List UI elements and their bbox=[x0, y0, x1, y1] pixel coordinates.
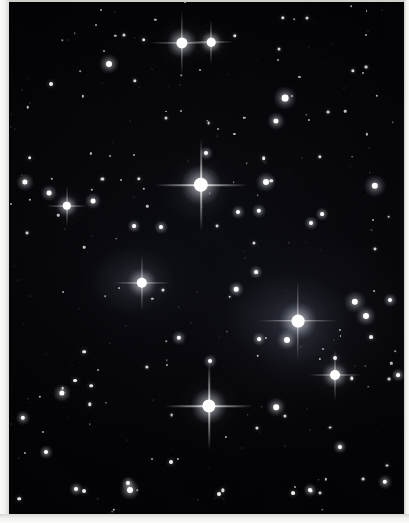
star-m23 bbox=[308, 488, 312, 492]
star-m02 bbox=[282, 95, 289, 102]
faint-star bbox=[18, 457, 19, 458]
faint-star bbox=[367, 31, 368, 32]
star-m33 bbox=[338, 445, 342, 449]
faint-star bbox=[300, 346, 301, 347]
faint-star bbox=[136, 489, 138, 491]
star-m11 bbox=[159, 225, 163, 229]
faint-star bbox=[10, 113, 11, 114]
star-m18 bbox=[59, 390, 64, 395]
star-m21 bbox=[127, 487, 133, 493]
bright-star-left-nebulous-glow bbox=[128, 269, 156, 297]
faint-glow-center bbox=[163, 167, 231, 223]
faint-star bbox=[262, 156, 266, 160]
faint-star bbox=[382, 9, 383, 10]
faint-star bbox=[66, 416, 67, 417]
faint-glow-lower-right bbox=[252, 314, 348, 386]
star-m17 bbox=[273, 404, 279, 410]
faint-star bbox=[79, 70, 81, 72]
faint-star bbox=[29, 199, 31, 201]
star-m13 bbox=[254, 270, 258, 274]
faint-star bbox=[319, 155, 322, 158]
faint-star bbox=[82, 489, 86, 493]
faint-star bbox=[91, 189, 93, 191]
star-m22-glow bbox=[69, 482, 83, 496]
faint-star bbox=[173, 448, 174, 449]
faint-star bbox=[233, 34, 236, 37]
brightest-star-center-spike-vertical bbox=[200, 139, 202, 231]
faint-star bbox=[344, 110, 347, 113]
faint-star bbox=[277, 47, 280, 50]
faint-star bbox=[166, 360, 168, 362]
faint-star bbox=[165, 340, 167, 342]
faint-star bbox=[101, 83, 102, 84]
faint-star bbox=[18, 497, 22, 501]
faint-star bbox=[247, 414, 248, 415]
faint-star bbox=[365, 34, 367, 36]
star-m05-glow bbox=[41, 185, 57, 201]
star-m26-glow bbox=[316, 208, 329, 221]
faint-star bbox=[17, 279, 18, 280]
faint-star bbox=[67, 40, 68, 41]
star-m27 bbox=[388, 298, 392, 302]
star-m05 bbox=[47, 191, 52, 196]
star-m04-glow bbox=[16, 173, 34, 191]
faint-star bbox=[394, 350, 396, 352]
faint-star bbox=[339, 445, 342, 448]
faint-star bbox=[373, 290, 375, 292]
faint-star bbox=[22, 324, 23, 325]
faint-star bbox=[368, 147, 369, 148]
bright-star-left-nebulous bbox=[137, 278, 147, 288]
star-m06-glow bbox=[85, 193, 101, 209]
faint-star bbox=[285, 290, 286, 291]
faint-star bbox=[369, 335, 373, 339]
star-m24 bbox=[383, 480, 387, 484]
faint-star bbox=[261, 406, 263, 408]
bright-star-left-nebulous-spike-vertical bbox=[141, 255, 142, 311]
faint-star bbox=[390, 362, 392, 364]
bright-star-right-nebulous bbox=[292, 315, 305, 328]
faint-star bbox=[350, 376, 353, 379]
faint-star bbox=[314, 21, 315, 22]
faint-star bbox=[184, 2, 186, 3]
faint-star bbox=[114, 11, 115, 12]
faint-star bbox=[344, 88, 345, 89]
star-m35-glow bbox=[121, 476, 135, 490]
faint-star bbox=[30, 403, 31, 404]
faint-star bbox=[257, 354, 260, 357]
faint-star bbox=[116, 238, 117, 239]
star-m18-glow bbox=[53, 384, 71, 402]
faint-star bbox=[10, 203, 12, 205]
faint-star bbox=[127, 439, 128, 440]
faint-star bbox=[209, 468, 210, 469]
faint-star bbox=[188, 184, 189, 185]
faint-star bbox=[28, 156, 32, 160]
faint-star bbox=[290, 171, 291, 172]
faint-star bbox=[165, 111, 167, 113]
faint-star bbox=[387, 215, 390, 218]
faint-star bbox=[324, 478, 326, 480]
faint-star bbox=[165, 116, 168, 119]
star-m08 bbox=[372, 183, 378, 189]
star-m01 bbox=[106, 61, 112, 67]
star-m07-glow bbox=[256, 172, 276, 192]
faint-star bbox=[62, 40, 63, 41]
bright-star-top-pair-b-spike-horizontal bbox=[189, 42, 233, 43]
bright-star-left-mid-spike-vertical bbox=[67, 186, 68, 226]
star-m32 bbox=[257, 337, 261, 341]
faint-star bbox=[215, 498, 216, 499]
star-m06 bbox=[91, 199, 96, 204]
photograph-frame bbox=[0, 0, 409, 523]
faint-star bbox=[333, 356, 337, 360]
faint-star bbox=[105, 295, 107, 297]
star-m22 bbox=[74, 487, 78, 491]
faint-star bbox=[78, 309, 79, 310]
star-m10 bbox=[236, 210, 240, 214]
faint-star bbox=[24, 452, 26, 454]
star-m17-glow bbox=[266, 397, 285, 416]
film-grain-overlay bbox=[9, 2, 404, 514]
faint-star bbox=[283, 414, 286, 417]
faint-star bbox=[216, 136, 217, 137]
faint-star bbox=[181, 75, 182, 76]
faint-star bbox=[371, 229, 372, 230]
star-m25-glow bbox=[199, 146, 213, 160]
